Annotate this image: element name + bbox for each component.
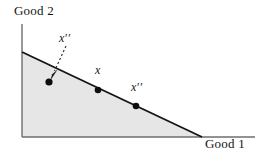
point-label-primes: ′′ [136, 80, 142, 94]
point-label-boundary-bundle: x′′ [131, 80, 143, 95]
interior-bundle-dot [45, 78, 52, 85]
point-label-primes: ′′ [64, 31, 70, 45]
bundle-x-dot [95, 87, 102, 94]
axis-label-good2: Good 2 [14, 3, 54, 19]
boundary-bundle-dot [133, 103, 140, 110]
point-label-interior-bundle: x′′ [59, 31, 71, 46]
axis-label-good1: Good 1 [205, 136, 245, 152]
point-label-bundle-x: x [95, 63, 100, 78]
point-label-base: x [95, 63, 100, 77]
budget-set-figure: Good 2 Good 1 x′′ x x′′ [0, 0, 267, 161]
leader-arrow-line [55, 46, 67, 71]
